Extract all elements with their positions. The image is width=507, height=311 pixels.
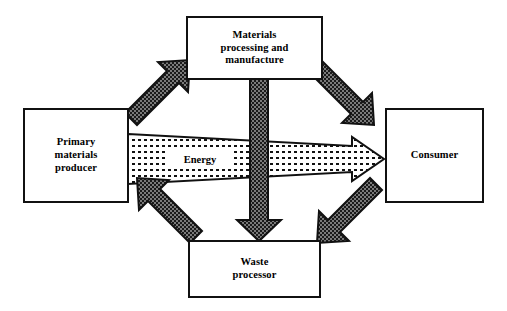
energy-flow-label-container: Energy bbox=[168, 150, 232, 168]
node-primary-materials-producer[interactable]: Primary materials producer bbox=[23, 108, 129, 203]
arrow-primary-to-materials bbox=[125, 60, 190, 125]
energy-flow-label: Energy bbox=[184, 154, 217, 165]
node-primary-materials-producer-label: Primary materials producer bbox=[51, 136, 102, 174]
diagram-canvas: Materials processing and manufacture Pri… bbox=[0, 0, 507, 311]
node-materials-processing-label: Materials processing and manufacture bbox=[216, 29, 292, 67]
node-waste-processor[interactable]: Waste processor bbox=[188, 240, 321, 298]
arrow-waste-to-primary bbox=[137, 178, 202, 243]
node-consumer-label: Consumer bbox=[407, 149, 462, 162]
node-materials-processing[interactable]: Materials processing and manufacture bbox=[186, 16, 323, 80]
node-waste-processor-label: Waste processor bbox=[229, 256, 281, 282]
arrow-consumer-to-waste bbox=[317, 178, 382, 243]
node-consumer[interactable]: Consumer bbox=[385, 108, 484, 203]
